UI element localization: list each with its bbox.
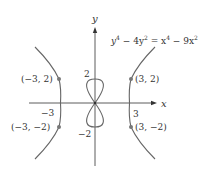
x-axis-arrow-icon [151,101,157,105]
origin-point [94,102,97,105]
point-3-2 [129,77,133,81]
y-axis-label: y [91,13,98,24]
eq-term: − 9x [170,36,194,46]
y-tick-neg2: −2 [78,129,91,139]
point-3-neg2 [129,125,133,129]
point-label-3-neg2: (3, −2) [135,122,167,132]
y-axis-arrow-icon [93,27,97,33]
point-neg3-2 [57,77,61,81]
eq-exp: 2 [194,34,198,41]
x-tick-neg3: −3 [41,108,55,118]
x-axis-label: x [161,98,167,109]
point-label-neg3-neg2: (−3, −2) [11,122,50,132]
axes [29,27,157,166]
y-tick-2: 2 [84,69,90,79]
point-neg3-neg2 [57,125,61,129]
x-tick-3: 3 [133,109,139,119]
point-label-3-2: (3, 2) [135,74,159,84]
equation-label: y4 − 4y2 = x4 − 9x2 [110,34,198,46]
eq-term: − 4y [120,36,145,46]
devil-curve-figure: y x −3 3 2 −2 (−3, 2) (3, 2) (−3, −2) (3… [0,0,216,176]
eq-term: = x [148,36,166,46]
point-label-neg3-2: (−3, 2) [21,74,53,84]
